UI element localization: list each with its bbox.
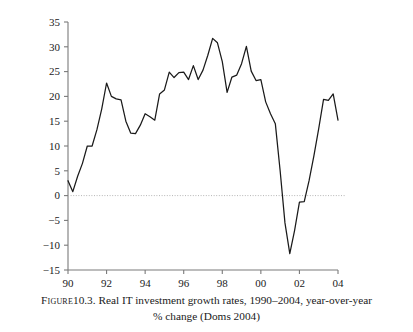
figure-container: 35302520151050−5−10−15 9092949698000204 … [0, 0, 413, 332]
y-axis-tick-label: 25 [49, 65, 61, 77]
x-axis-tick-label: 90 [63, 277, 75, 289]
chart-plot-area: 35302520151050−5−10−15 9092949698000204 [0, 0, 413, 292]
figure-caption: Figure10.3. Real IT investment growth ra… [0, 292, 413, 324]
x-axis: 9092949698000204 [63, 270, 345, 289]
x-axis-tick-label: 94 [140, 277, 152, 289]
y-axis-tick-label: 10 [49, 140, 61, 152]
y-axis: 35302520151050−5−10−15 [43, 16, 68, 276]
x-axis-tick-label: 98 [217, 277, 229, 289]
caption-line-1: Figure10.3. Real IT investment growth ra… [0, 292, 413, 308]
y-axis-tick-label: −15 [43, 264, 61, 276]
series-line-it-investment-growth [68, 38, 338, 253]
x-axis-tick-label: 00 [255, 277, 267, 289]
x-axis-tick-label: 02 [294, 277, 305, 289]
y-axis-tick-label: 5 [55, 165, 61, 177]
line-chart-svg: 35302520151050−5−10−15 9092949698000204 [0, 0, 413, 292]
y-axis-tick-label: −5 [48, 214, 60, 226]
caption-number: 10.3. [73, 294, 96, 306]
y-axis-tick-label: −10 [43, 239, 61, 251]
x-axis-tick-label: 92 [101, 277, 112, 289]
x-axis-tick-label: 04 [333, 277, 345, 289]
y-axis-tick-label: 30 [49, 41, 61, 53]
x-axis-tick-label: 96 [178, 277, 190, 289]
y-axis-tick-label: 15 [49, 115, 61, 127]
caption-figure-word: Figure [41, 294, 73, 306]
caption-line-2: % change (Doms 2004) [0, 308, 413, 324]
caption-text-line-1: Real IT investment growth rates, 1990–20… [98, 294, 372, 306]
y-axis-tick-label: 20 [49, 90, 61, 102]
data-series-line [68, 38, 338, 253]
y-axis-tick-label: 0 [55, 189, 61, 201]
y-axis-tick-label: 35 [49, 16, 61, 28]
